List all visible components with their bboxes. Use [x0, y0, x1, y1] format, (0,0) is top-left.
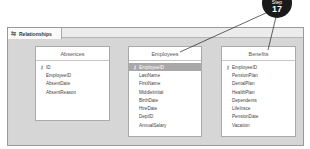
callout-leader-lines: [0, 0, 310, 149]
step-number: 17: [272, 5, 282, 14]
leader-line-benefits: [268, 17, 276, 50]
leader-line-employees: [180, 12, 268, 52]
